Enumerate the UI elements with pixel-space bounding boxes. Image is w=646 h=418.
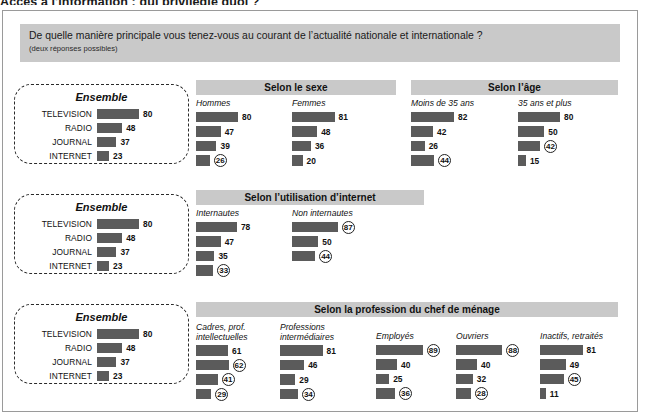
group-value: 35 bbox=[218, 251, 227, 261]
ensemble-value: 80 bbox=[143, 109, 152, 119]
ensemble-box: EnsembleTELEVISION80RADIO48JOURNAL37INTE… bbox=[14, 304, 189, 384]
group-title: Femmes bbox=[292, 99, 348, 109]
ensemble-bar bbox=[97, 371, 109, 381]
ensemble-row: TELEVISION80 bbox=[23, 327, 182, 340]
group-rows: 81483620 bbox=[292, 111, 348, 168]
group-value: 25 bbox=[393, 374, 402, 384]
group-value-circled: 88 bbox=[506, 344, 519, 357]
group-row: 45 bbox=[540, 373, 603, 386]
group-row: 26 bbox=[196, 154, 251, 167]
group-value: 40 bbox=[401, 360, 410, 370]
group-value: 47 bbox=[225, 237, 234, 247]
page-headline: Accès à l'information : qui privilégie q… bbox=[0, 0, 260, 5]
group-block: Employés89402536 bbox=[376, 332, 440, 402]
group-row: 15 bbox=[518, 154, 573, 167]
group-title: Professions intermédiaires bbox=[280, 323, 336, 342]
ensemble-title: Ensemble bbox=[15, 91, 188, 103]
group-title: Employés bbox=[376, 332, 440, 342]
group-rows: 81494511 bbox=[540, 344, 603, 401]
group-row: 82 bbox=[411, 111, 474, 124]
group-value-circled: 42 bbox=[544, 140, 557, 153]
group-block: Internautes78473533 bbox=[196, 209, 250, 279]
ensemble-row: TELEVISION80 bbox=[23, 217, 182, 230]
ensemble-row-label: JOURNAL bbox=[23, 357, 97, 367]
ensemble-value: 37 bbox=[120, 357, 129, 367]
group-row: 36 bbox=[292, 140, 348, 153]
group-value-circled: 33 bbox=[217, 264, 230, 277]
ensemble-row: INTERNET23 bbox=[23, 369, 182, 382]
group-bar bbox=[196, 155, 210, 166]
group-bar bbox=[292, 112, 335, 123]
group-value: 49 bbox=[570, 360, 579, 370]
group-value: 39 bbox=[220, 141, 229, 151]
group-row: 11 bbox=[540, 387, 603, 400]
group-row: 50 bbox=[518, 125, 573, 138]
section-title-bar: Selon le sexe bbox=[196, 80, 396, 95]
ensemble-row: TELEVISION80 bbox=[23, 107, 182, 120]
group-value-circled: 26 bbox=[214, 154, 227, 167]
ensemble-value: 37 bbox=[120, 137, 129, 147]
chart-page: Accès à l'information : qui privilégie q… bbox=[0, 0, 646, 418]
ensemble-row-label: TELEVISION bbox=[23, 219, 97, 229]
group-row: 80 bbox=[196, 111, 251, 124]
ensemble-bar bbox=[97, 123, 122, 133]
ensemble-bar bbox=[97, 247, 116, 257]
group-title: Inactifs, retraités bbox=[540, 332, 603, 342]
group-row: 33 bbox=[196, 264, 250, 277]
ensemble-row: RADIO48 bbox=[23, 341, 182, 354]
group-bar bbox=[196, 141, 216, 152]
ensemble-row: JOURNAL37 bbox=[23, 135, 182, 148]
ensemble-rows: TELEVISION80RADIO48JOURNAL37INTERNET23 bbox=[23, 217, 182, 273]
group-bar bbox=[196, 222, 237, 233]
group-bar bbox=[196, 251, 214, 262]
group-value-circled: 87 bbox=[342, 221, 355, 234]
ensemble-row-label: JOURNAL bbox=[23, 137, 97, 147]
ensemble-box: EnsembleTELEVISION80RADIO48JOURNAL37INTE… bbox=[14, 84, 189, 164]
group-bar bbox=[280, 345, 323, 356]
group-value: 46 bbox=[308, 360, 317, 370]
ensemble-value: 23 bbox=[113, 261, 122, 271]
ensemble-bar bbox=[97, 219, 139, 229]
group-value: 61 bbox=[232, 346, 241, 356]
group-bar bbox=[376, 345, 423, 356]
group-block: Moins de 35 ans82422644 bbox=[411, 99, 474, 169]
group-bar bbox=[196, 112, 238, 123]
ensemble-row: INTERNET23 bbox=[23, 149, 182, 162]
group-row: 47 bbox=[196, 235, 250, 248]
group-bar bbox=[540, 388, 546, 399]
group-row: 50 bbox=[292, 235, 355, 248]
group-title: Non internautes bbox=[292, 209, 355, 219]
ensemble-row-label: TELEVISION bbox=[23, 109, 97, 119]
group-rows: 81462934 bbox=[280, 344, 336, 401]
group-row: 40 bbox=[376, 358, 440, 371]
group-value-circled: 62 bbox=[233, 359, 246, 372]
group-bar bbox=[411, 112, 454, 123]
group-row: 42 bbox=[518, 140, 573, 153]
group-bar bbox=[292, 236, 318, 247]
group-row: 40 bbox=[456, 358, 519, 371]
group-value: 29 bbox=[299, 375, 308, 385]
group-value: 36 bbox=[315, 141, 324, 151]
group-rows: 80473926 bbox=[196, 111, 251, 168]
group-bar bbox=[280, 360, 304, 371]
group-value: 81 bbox=[327, 346, 336, 356]
ensemble-value: 37 bbox=[120, 247, 129, 257]
group-row: 26 bbox=[411, 140, 474, 153]
group-row: 62 bbox=[196, 359, 248, 372]
group-bar bbox=[540, 359, 566, 370]
group-row: 61 bbox=[196, 344, 248, 357]
group-bar bbox=[292, 222, 338, 233]
group-value: 11 bbox=[550, 389, 559, 399]
ensemble-title: Ensemble bbox=[15, 201, 188, 213]
group-bar bbox=[196, 236, 221, 247]
group-block: Inactifs, retraités81494511 bbox=[540, 332, 603, 402]
ensemble-bar bbox=[97, 137, 116, 147]
group-rows: 875044 bbox=[292, 221, 355, 263]
group-bar bbox=[292, 155, 303, 166]
group-rows: 89402536 bbox=[376, 344, 440, 401]
group-bar bbox=[376, 359, 397, 370]
group-row: 78 bbox=[196, 221, 250, 234]
group-bar bbox=[456, 345, 502, 356]
group-row: 81 bbox=[540, 344, 603, 357]
group-value-circled: 28 bbox=[475, 387, 488, 400]
